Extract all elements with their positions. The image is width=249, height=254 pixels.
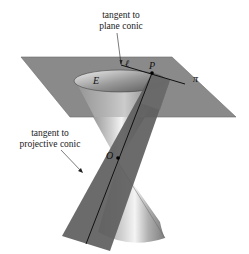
point-P <box>150 71 154 75</box>
label-E: E <box>93 75 99 86</box>
label-line: tangent to <box>86 10 156 21</box>
label-ell: ℓ <box>125 58 129 69</box>
label-tangent-plane-conic: tangent to plane conic <box>86 10 156 32</box>
label-line: projective conic <box>10 139 90 150</box>
label-pi: π <box>193 73 198 84</box>
label-line: tangent to <box>10 128 90 139</box>
label-line: plane conic <box>86 21 156 32</box>
label-tangent-projective-conic: tangent to projective conic <box>10 128 90 150</box>
label-P: P <box>149 60 155 71</box>
arrow-projective-tangent <box>61 150 82 172</box>
point-O <box>116 156 120 160</box>
projective-conic-diagram <box>0 0 249 254</box>
label-O: O <box>106 150 113 161</box>
